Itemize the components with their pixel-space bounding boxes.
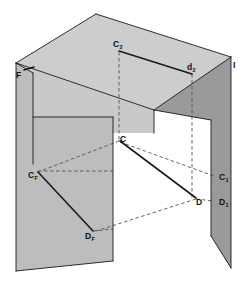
label-plane-f: F <box>16 70 21 80</box>
label-d2-subscript: 2 <box>193 67 196 73</box>
diagram-canvas: FC2d2ICCFC1DD1DF <box>0 0 247 284</box>
label-cf-text: C <box>28 170 34 180</box>
segment-C-D <box>120 141 196 198</box>
label-c-text: C <box>120 134 126 144</box>
label-plane-f-text: F <box>16 70 21 80</box>
label-c2-text: C <box>113 39 119 49</box>
C-to-C1-projector <box>120 142 214 176</box>
label-d2-text: d <box>187 62 192 72</box>
label-plane-i-text: I <box>233 60 235 70</box>
label-d1-text: D <box>219 197 225 207</box>
label-d-text: D <box>196 197 202 207</box>
projection-diagram: FC2d2ICCFC1DD1DF <box>0 0 247 284</box>
label-c1-text: C <box>219 172 225 182</box>
label-c1-subscript: 1 <box>226 177 229 183</box>
label-c: C <box>120 134 126 144</box>
label-d: D <box>196 197 202 207</box>
label-df-text: D <box>85 231 91 241</box>
label-plane-i: I <box>233 60 235 70</box>
label-c2-subscript: 2 <box>120 44 123 50</box>
label-d1-subscript: 1 <box>226 202 229 208</box>
